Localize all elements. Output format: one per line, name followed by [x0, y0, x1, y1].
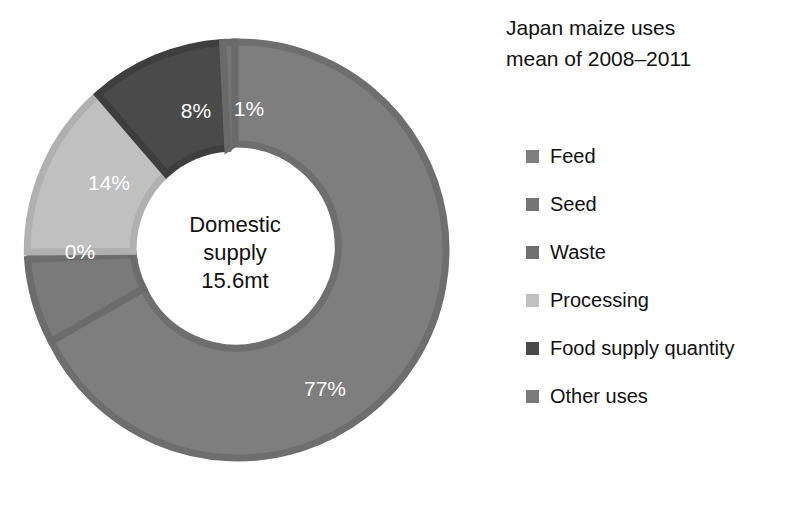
- center-label-line3: 15.6mt: [201, 268, 268, 293]
- chart-legend: Feed Seed Waste Processing Food supply q…: [526, 132, 786, 420]
- legend-swatch-feed: [526, 150, 539, 163]
- legend-item-feed[interactable]: Feed: [526, 132, 786, 180]
- legend-swatch-processing: [526, 294, 539, 307]
- legend-item-food-supply-quantity[interactable]: Food supply quantity: [526, 324, 786, 372]
- legend-item-waste[interactable]: Waste: [526, 228, 786, 276]
- slice-label-waste: 0%: [65, 240, 95, 263]
- chart-title-line2: mean of 2008–2011: [506, 43, 786, 74]
- donut-chart-svg: 77% 1% 0% 14% 8% Domestic supply 15.6mt: [0, 0, 470, 513]
- legend-swatch-other-uses: [526, 390, 539, 403]
- center-label-line2: supply: [203, 240, 267, 265]
- slice-label-feed: 77%: [304, 377, 346, 400]
- legend-label-processing: Processing: [550, 290, 649, 310]
- legend-label-waste: Waste: [550, 242, 606, 262]
- legend-item-processing[interactable]: Processing: [526, 276, 786, 324]
- donut-slice-seed[interactable]: [223, 42, 235, 148]
- slice-label-food-supply-quantity: 8%: [181, 99, 211, 122]
- legend-swatch-food-supply-quantity: [526, 342, 539, 355]
- center-label-line1: Domestic: [189, 212, 281, 237]
- legend-swatch-seed: [526, 198, 539, 211]
- chart-title-line1: Japan maize uses: [506, 12, 786, 43]
- legend-label-other-uses: Other uses: [550, 386, 648, 406]
- slice-label-seed: 1%: [234, 97, 264, 120]
- legend-label-food-supply-quantity: Food supply quantity: [550, 338, 735, 358]
- legend-item-seed[interactable]: Seed: [526, 180, 786, 228]
- slice-label-processing: 14%: [88, 171, 130, 194]
- chart-title: Japan maize uses mean of 2008–2011: [506, 12, 786, 74]
- chart-side-panel: Japan maize uses mean of 2008–2011 Feed …: [470, 0, 786, 513]
- legend-item-other-uses[interactable]: Other uses: [526, 372, 786, 420]
- donut-chart-area: 77% 1% 0% 14% 8% Domestic supply 15.6mt: [0, 0, 470, 513]
- legend-label-feed: Feed: [550, 146, 596, 166]
- legend-label-seed: Seed: [550, 194, 597, 214]
- legend-swatch-waste: [526, 246, 539, 259]
